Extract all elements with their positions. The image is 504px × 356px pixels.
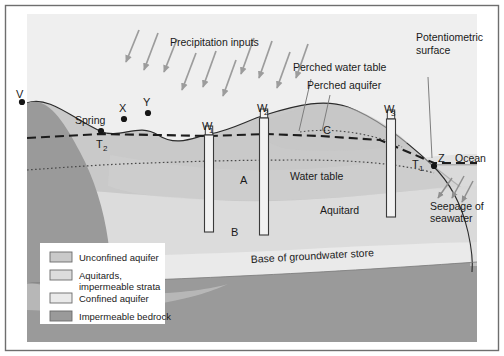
legend-label: Unconfined aquifer — [79, 252, 159, 263]
label-potentiometric-surface-line2: surface — [416, 44, 451, 56]
label-potentiometric-surface-line1: Potentiometric — [416, 31, 483, 43]
legend-item: Unconfined aquifer — [50, 252, 159, 263]
label-seepage-line1: Seepage of — [430, 200, 484, 212]
label-ocean: Ocean — [455, 152, 486, 164]
legend-item: Confined aquifer — [50, 293, 149, 304]
legend-swatch — [50, 252, 72, 262]
legend-label: Confined aquifer — [79, 293, 149, 304]
label-zone-b: B — [231, 226, 238, 238]
well-label-subscript-w1: 1 — [209, 126, 214, 135]
legend-swatch — [50, 293, 72, 303]
label-perched-water-table: Perched water table — [293, 61, 387, 73]
label-point-t2: T — [96, 138, 103, 150]
label-point-x: X — [119, 102, 127, 114]
label-spring: Spring — [75, 114, 106, 126]
label-point-v: V — [16, 88, 24, 100]
legend-label-line2: impermeable strata — [79, 281, 161, 292]
diagram-canvas: W1W2W3 Precipitation inputs Perched wate… — [0, 0, 504, 356]
legend-item: Impermeable bedrock — [50, 311, 171, 322]
label-zone-c: C — [323, 124, 331, 136]
well-label-subscript-w3: 3 — [391, 109, 396, 118]
label-point-t2-subscript: 2 — [103, 144, 108, 153]
point-x — [121, 116, 127, 122]
label-seepage-line2: seawater — [430, 212, 473, 224]
label-precipitation: Precipitation inputs — [170, 36, 259, 48]
label-point-z: Z — [438, 152, 445, 164]
label-point-t1: T — [412, 158, 419, 170]
legend-label: Impermeable bedrock — [79, 311, 171, 322]
point-y — [145, 110, 151, 116]
well-shaft — [260, 118, 269, 235]
legend: Unconfined aquiferAquitards,impermeable … — [40, 243, 171, 324]
legend-swatch — [50, 270, 72, 280]
point-z — [431, 163, 437, 169]
label-perched-aquifer: Perched aquifer — [307, 79, 382, 91]
label-point-t1-subscript: 1 — [419, 164, 424, 173]
legend-swatch — [50, 311, 72, 321]
well-shaft — [387, 119, 396, 217]
label-aquitard: Aquitard — [320, 204, 359, 216]
label-zone-a: A — [240, 174, 248, 186]
well-label-subscript-w2: 2 — [264, 108, 269, 117]
well-shaft — [205, 135, 214, 232]
point-t2 — [98, 128, 104, 134]
label-water-table: Water table — [290, 170, 343, 182]
legend-label: Aquitards, — [79, 270, 122, 281]
label-point-y: Y — [143, 96, 151, 108]
